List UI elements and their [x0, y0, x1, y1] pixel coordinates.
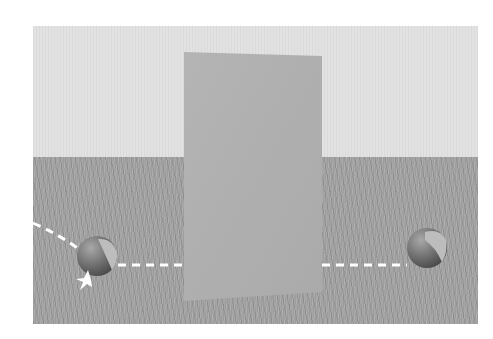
left-ball [77, 236, 117, 276]
incoming-trajectory [33, 223, 80, 250]
scene-overlay [0, 0, 493, 339]
right-ball [407, 228, 447, 268]
barrier-panel [184, 52, 322, 301]
